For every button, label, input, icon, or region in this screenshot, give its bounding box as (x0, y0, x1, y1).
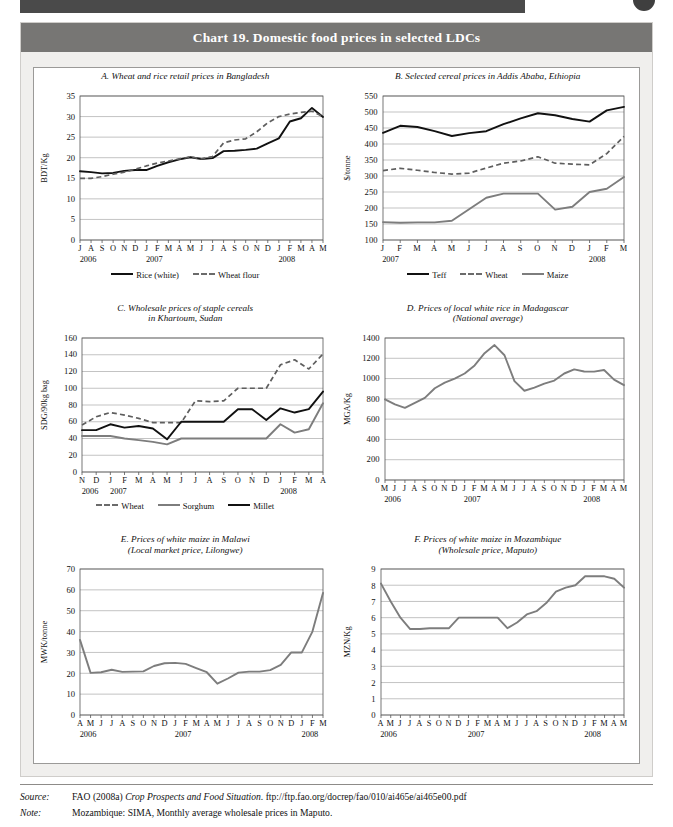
x-tick-label: A (246, 719, 252, 728)
x-tick-label: N (445, 719, 451, 728)
y-tick-label: 200 (337, 454, 380, 464)
plot-area-e: 010203040506070MWK/tonneAMJJASONDJFMAMJJ… (34, 531, 337, 763)
x-tick-label: J (109, 476, 112, 485)
x-tick-label: J (582, 484, 585, 493)
x-tick-label: M (135, 476, 142, 485)
x-tick-label: D (288, 719, 294, 728)
y-tick-label: 0 (337, 475, 380, 485)
y-tick-label: 0 (337, 710, 376, 720)
chart-panel-f: F. Prices of white maize in Mozambique(W… (337, 531, 640, 763)
x-tick-label: A (204, 719, 210, 728)
x-tick-label: J (525, 719, 528, 728)
x-tick-label: A (176, 244, 182, 253)
x-tick-label: D (263, 476, 269, 485)
x-tick-label: M (381, 484, 388, 493)
x-tick-label: M (87, 719, 94, 728)
source-text-italic: Crop Prospects and Food Situation (125, 791, 261, 802)
y-tick-label: 150 (337, 219, 378, 229)
x-tick-label: M (620, 484, 627, 493)
x-axis-year-label: 2008 (584, 730, 601, 739)
legend-b: TeffWheatMaize (337, 268, 640, 280)
x-tick-label: J (226, 719, 229, 728)
x-tick-label: M (503, 719, 510, 728)
y-tick-label: 200 (337, 203, 378, 213)
plot-frame (80, 96, 323, 240)
x-tick-label: A (416, 719, 422, 728)
legend-swatch-icon (460, 273, 482, 275)
y-tick-label: 30 (34, 112, 75, 122)
x-tick-label: O (551, 484, 557, 493)
x-tick-label: S (518, 244, 523, 253)
y-tick-label: 40 (34, 433, 77, 443)
x-tick-label: O (552, 719, 558, 728)
x-tick-label: J (484, 244, 487, 253)
chart-title: Chart 19. Domestic food prices in select… (21, 23, 652, 52)
y-tick-label: 20 (34, 450, 77, 460)
x-tick-label: J (408, 719, 411, 728)
x-tick-label: N (79, 476, 85, 485)
legend-swatch-icon (96, 504, 118, 506)
legend-label: Millet (253, 501, 274, 511)
legend-item[interactable]: Millet (228, 500, 274, 511)
plot-svg-c (34, 300, 337, 532)
x-tick-label: N (278, 719, 284, 728)
legend-item[interactable]: Wheat (96, 500, 143, 511)
legend-item[interactable]: Rice (white) (111, 269, 179, 280)
plot-svg-a (34, 68, 337, 300)
chart-panel-b: B. Selected cereal prices in Addis Ababa… (337, 68, 640, 300)
legend-item[interactable]: Wheat (460, 269, 507, 280)
x-tick-label: A (309, 244, 315, 253)
x-tick-label: O (431, 484, 437, 493)
x-tick-label: J (110, 719, 113, 728)
legend-item[interactable]: Wheat flour (193, 269, 259, 280)
legend-item[interactable]: Teff (407, 269, 446, 280)
x-tick-label: N (562, 719, 568, 728)
y-tick-label: 8 (337, 581, 376, 591)
x-axis-year-label: 2008 (589, 255, 606, 264)
x-tick-label: S (422, 484, 427, 493)
x-tick-label: F (155, 244, 160, 253)
x-tick-label: M (413, 244, 420, 253)
x-tick-label: F (310, 719, 315, 728)
series-line-millet (82, 391, 323, 439)
y-tick-label: 140 (34, 349, 77, 359)
plot-frame (381, 569, 624, 715)
y-tick-label: 550 (337, 91, 378, 101)
x-axis-year-label: 2007 (110, 487, 127, 496)
chart-panel-d: D. Prices of local white rice in Madagas… (337, 300, 640, 532)
plot-area-f: 0123456789MZN/KgAMJJASONDJFMAMJJASONDJFM… (337, 531, 640, 763)
source-value: FAO (2008a) Crop Prospects and Food Situ… (72, 790, 653, 805)
x-tick-label: D (161, 719, 167, 728)
legend-swatch-icon (158, 504, 180, 506)
x-tick-label: M (192, 719, 199, 728)
y-tick-label: 400 (337, 434, 380, 444)
y-tick-label: 0 (34, 467, 77, 477)
y-axis-label-e: MWK/tonne (40, 621, 49, 663)
y-tick-label: 2 (337, 678, 376, 688)
x-tick-label: A (150, 476, 156, 485)
y-tick-label: 5 (34, 214, 75, 224)
x-tick-label: A (491, 484, 497, 493)
legend-label: Wheat flour (218, 270, 259, 280)
series-line-rice-white (80, 108, 323, 173)
x-tick-label: A (500, 244, 506, 253)
x-tick-label: M (386, 719, 393, 728)
x-tick-label: D (569, 244, 575, 253)
running-header-strip (0, 0, 673, 14)
plot-area-b: 100150200250300350400450500550$/tonneJFM… (337, 68, 640, 300)
x-tick-label: D (572, 719, 578, 728)
legend-item[interactable]: Sorghum (158, 500, 214, 511)
x-tick-label: D (93, 476, 99, 485)
chart-panel-c: C. Wholesale prices of staple cerealsin … (34, 300, 337, 532)
y-tick-label: 60 (34, 585, 75, 595)
series-line-maize (383, 177, 624, 223)
x-axis-year-label: 2006 (380, 730, 397, 739)
x-axis-year-label: 2008 (302, 730, 319, 739)
x-axis-year-label: 2007 (468, 730, 485, 739)
legend-swatch-icon (111, 273, 133, 275)
x-tick-label: J (398, 719, 401, 728)
x-tick-label: A (320, 476, 326, 485)
y-tick-label: 35 (34, 91, 75, 101)
legend-item[interactable]: Maize (522, 269, 568, 280)
x-tick-label: J (512, 484, 515, 493)
